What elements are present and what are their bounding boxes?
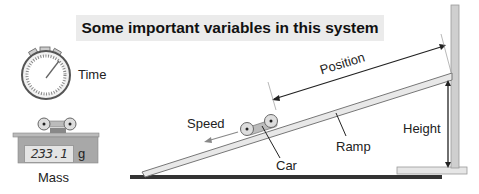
speed-label: Speed	[187, 116, 225, 131]
ground-line	[130, 175, 442, 179]
ramp-label: Ramp	[336, 139, 371, 154]
time-label: Time	[78, 67, 106, 82]
car-label: Car	[276, 158, 297, 173]
mass-label: Mass	[38, 170, 69, 185]
ramp-diagram	[0, 0, 479, 194]
speed-arrow	[207, 132, 238, 141]
height-label: Height	[403, 121, 441, 136]
ramp-leader	[336, 113, 346, 136]
stopwatch-icon	[22, 47, 70, 99]
support-post	[451, 5, 459, 168]
scale-display: 233.1	[24, 145, 74, 163]
mass-unit: g	[78, 146, 85, 161]
